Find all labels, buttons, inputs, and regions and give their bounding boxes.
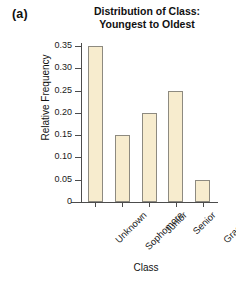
x-axis-title: Class bbox=[66, 262, 226, 273]
x-category-label-graduate: Graduate bbox=[221, 210, 236, 245]
y-tick-label: 0.10 bbox=[54, 152, 72, 161]
y-tick-label: 0.30 bbox=[54, 63, 72, 72]
y-tick-mark bbox=[75, 68, 81, 69]
bar-sophomore bbox=[115, 135, 130, 202]
y-tick-mark bbox=[75, 46, 81, 47]
bar-graduate bbox=[195, 180, 210, 202]
x-category-label-senior: Senior bbox=[191, 210, 217, 236]
y-tick-label: 0.35 bbox=[54, 41, 72, 50]
x-axis-line bbox=[71, 202, 218, 203]
bar-junior bbox=[142, 113, 157, 202]
y-tick-mark bbox=[75, 180, 81, 181]
x-category-label-junior: Junior bbox=[164, 210, 189, 235]
panel-label: (a) bbox=[12, 7, 28, 21]
y-tick-label: 0.05 bbox=[54, 175, 72, 184]
y-tick-mark bbox=[75, 202, 81, 203]
figure-panel: (a) Distribution of Class: Youngest to O… bbox=[0, 0, 236, 286]
x-category-label-unknown: Unknown bbox=[114, 210, 149, 245]
y-tick-label: 0.25 bbox=[54, 86, 72, 95]
y-axis-line bbox=[81, 43, 82, 203]
y-tick-mark bbox=[75, 135, 81, 136]
bar-senior bbox=[168, 91, 183, 202]
y-axis-title: Relative Frequency bbox=[40, 28, 51, 168]
y-tick-mark bbox=[75, 113, 81, 114]
bar-unknown bbox=[88, 46, 103, 202]
y-tick-label: 0.20 bbox=[54, 108, 72, 117]
y-tick-label: 0.15 bbox=[54, 130, 72, 139]
x-tick-mark bbox=[149, 203, 150, 207]
y-tick-label: 0 bbox=[67, 197, 72, 206]
y-tick-mark bbox=[75, 91, 81, 92]
x-tick-mark bbox=[203, 203, 204, 207]
chart-title-line-1: Distribution of Class: bbox=[62, 5, 232, 18]
chart-title: Distribution of Class: Youngest to Oldes… bbox=[62, 5, 232, 31]
x-tick-mark bbox=[122, 203, 123, 207]
chart-title-line-2: Youngest to Oldest bbox=[62, 18, 232, 31]
x-tick-mark bbox=[95, 203, 96, 207]
x-tick-mark bbox=[176, 203, 177, 207]
y-tick-mark bbox=[75, 157, 81, 158]
